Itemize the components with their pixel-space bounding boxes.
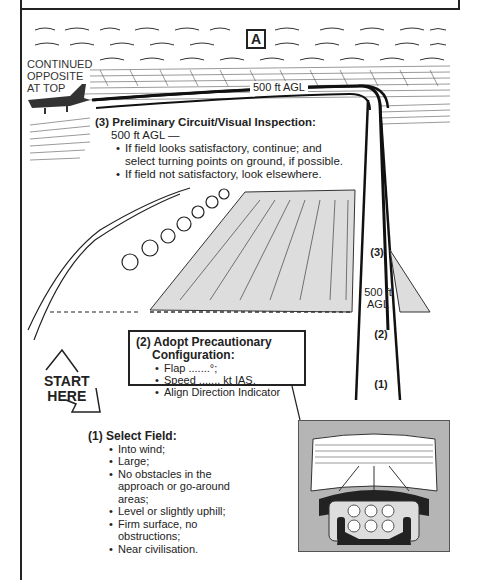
step1-text: (1) Select Field: Into wind; Large; No o… bbox=[88, 430, 256, 555]
path-label-altitude: 500 ft AGL bbox=[358, 286, 398, 310]
step1-bullet: Level or slightly uphill; bbox=[106, 505, 256, 518]
step3-title: (3) Preliminary Circuit/Visual Inspectio… bbox=[95, 116, 353, 129]
step1-bullet: No obstacles in the approach or go-aroun… bbox=[106, 468, 256, 506]
step1-title: (1) Select Field: bbox=[88, 430, 256, 443]
cloud-lines-icon bbox=[35, 28, 446, 60]
start-here-label: START HERE bbox=[44, 374, 90, 404]
continued-line-1: CONTINUED bbox=[27, 58, 92, 70]
continued-line-3: AT TOP bbox=[27, 82, 92, 94]
panel-label: A bbox=[246, 29, 266, 49]
cockpit-view-inset bbox=[298, 420, 450, 552]
step2-bullet: Align Direction Indicator bbox=[152, 386, 298, 398]
step2-bullet: Flap .......°; bbox=[152, 362, 298, 374]
step1-bullet: Large; bbox=[106, 455, 256, 468]
step3-bullet: If field looks satisfactory, continue; a… bbox=[113, 142, 353, 168]
step3-text: (3) Preliminary Circuit/Visual Inspectio… bbox=[95, 116, 353, 181]
step1-bullet: Firm surface, no obstructions; bbox=[106, 518, 256, 543]
altitude-label: 500 ft AGL bbox=[250, 81, 308, 93]
step1-bullet: Near civilisation. bbox=[106, 543, 256, 556]
cockpit-icon bbox=[299, 421, 449, 551]
step3-subtitle: 500 ft AGL — bbox=[95, 129, 353, 142]
step2-box: (2) Adopt Precautionary Configuration: F… bbox=[128, 330, 306, 386]
continued-line-2: OPPOSITE bbox=[27, 70, 92, 82]
path-label-step2: (2) bbox=[366, 328, 396, 340]
step3-bullet: If field not satisfactory, look elsewher… bbox=[113, 168, 353, 181]
step2-title-2: Configuration: bbox=[136, 349, 298, 362]
path-label-step1: (1) bbox=[366, 378, 396, 390]
path-label-step3: (3) bbox=[362, 246, 392, 258]
step2-bullet: Speed ....... kt IAS. bbox=[152, 374, 298, 386]
continued-note: CONTINUED OPPOSITE AT TOP bbox=[27, 58, 92, 94]
step1-bullet: Into wind; bbox=[106, 443, 256, 456]
